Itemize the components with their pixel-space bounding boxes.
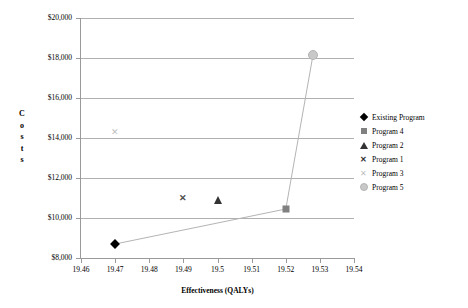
- data-point-program-2: [214, 196, 222, 204]
- legend-item-program-2[interactable]: Program 2: [358, 138, 466, 152]
- y-axis-tick-label: $10,000: [24, 214, 72, 222]
- legend-marker-x-bold-icon: ✕: [358, 154, 369, 165]
- legend-item-label: Program 1: [372, 155, 403, 164]
- legend-item-label: Program 2: [372, 141, 403, 150]
- x-axis-title: Effectiveness (QALYs): [81, 286, 354, 295]
- y-axis-tick-label: $14,000: [24, 134, 72, 142]
- legend-item-program-5[interactable]: Program 5: [358, 180, 466, 194]
- data-point-program-1: ✕: [179, 194, 187, 203]
- x-axis-tick-mark: [149, 259, 150, 263]
- data-point-program-5: [308, 50, 318, 60]
- x-axis-tick-mark: [354, 259, 355, 263]
- data-point-program-3: ✕: [111, 128, 119, 137]
- cost-effectiveness-scatter-chart: Costs $8,000$10,000$12,000$14,000$16,000…: [0, 0, 468, 308]
- y-axis-tick-label: $16,000: [24, 94, 72, 102]
- legend-item-program-3[interactable]: ✕Program 3: [358, 166, 466, 180]
- legend-item-label: Program 3: [372, 169, 403, 178]
- legend-item-existing-program[interactable]: Existing Program: [358, 110, 466, 124]
- y-axis-tick-mark: [76, 138, 81, 139]
- y-axis-tick-mark: [76, 18, 81, 19]
- legend-marker-x-light-icon: ✕: [358, 168, 369, 179]
- x-axis-tick-labels: 19.4619.4719.4819.4919.519.5119.5219.531…: [0, 265, 468, 279]
- y-axis-tick-labels: $8,000$10,000$12,000$14,000$16,000$18,00…: [24, 0, 72, 308]
- x-axis-tick-label: 19.54: [334, 265, 374, 274]
- legend-item-program-4[interactable]: Program 4: [358, 124, 466, 138]
- plot-area: ✕✕: [81, 18, 354, 258]
- y-axis-tick-label: $8,000: [24, 254, 72, 262]
- x-axis-tick-mark: [218, 259, 219, 263]
- legend-marker-diamond-icon: [358, 112, 369, 123]
- x-axis-tick-mark: [81, 259, 82, 263]
- x-axis-tick-mark: [286, 259, 287, 263]
- y-axis-tick-label: $12,000: [24, 174, 72, 182]
- x-axis-tick-mark: [115, 259, 116, 263]
- y-axis-tick-mark: [76, 98, 81, 99]
- chart-legend: Existing ProgramProgram 4Program 2✕Progr…: [358, 110, 466, 194]
- y-axis-tick-mark: [76, 178, 81, 179]
- y-axis-tick-label: $20,000: [24, 14, 72, 22]
- y-axis-tick-mark: [76, 218, 81, 219]
- legend-item-label: Program 5: [372, 183, 403, 192]
- y-axis-tick-mark: [76, 58, 81, 59]
- x-axis-tick-mark: [320, 259, 321, 263]
- legend-marker-square-icon: [358, 126, 369, 137]
- legend-marker-circle-icon: [358, 182, 369, 193]
- y-axis-tick-label: $18,000: [24, 54, 72, 62]
- legend-item-label: Existing Program: [372, 113, 425, 122]
- legend-marker-triangle-icon: [358, 140, 369, 151]
- legend-item-label: Program 4: [372, 127, 403, 136]
- data-point-program-4: [282, 206, 289, 213]
- x-axis-tick-mark: [183, 259, 184, 263]
- x-axis-tick-mark: [252, 259, 253, 263]
- legend-item-program-1[interactable]: ✕Program 1: [358, 152, 466, 166]
